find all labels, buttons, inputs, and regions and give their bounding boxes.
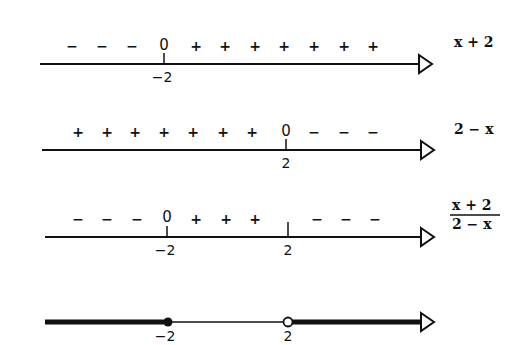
zero-marker: 0 <box>281 122 291 140</box>
plus-sign: + <box>72 124 84 140</box>
tick-label: 2 <box>282 155 291 171</box>
plus-sign: + <box>158 124 170 140</box>
plus-sign: + <box>220 211 232 227</box>
expression-label: x + 2 <box>454 34 494 50</box>
zero-marker: 0 <box>162 208 172 226</box>
zero-marker: 0 <box>159 36 169 54</box>
plus-sign: + <box>190 211 202 227</box>
number-line-2-minus-x: 0 2 +++++++−−− 2 − x <box>42 121 494 171</box>
sign-markers: +++++++−−− <box>72 124 379 140</box>
plus-sign: + <box>217 124 229 140</box>
plus-sign: + <box>187 124 199 140</box>
tick-label: 2 <box>284 328 293 344</box>
plus-sign: + <box>249 211 261 227</box>
arrow-head-icon <box>421 141 434 159</box>
open-point-icon <box>284 318 293 327</box>
minus-sign: − <box>340 211 352 227</box>
plus-sign: + <box>278 38 290 54</box>
plus-sign: + <box>101 124 113 140</box>
minus-sign: − <box>66 38 78 54</box>
tick-label: −2 <box>152 69 173 85</box>
arrow-head-icon <box>419 55 432 73</box>
plus-sign: + <box>219 38 231 54</box>
minus-sign: − <box>126 38 138 54</box>
tick-label: 2 <box>284 242 293 258</box>
sign-markers: −−−+++−−− <box>72 211 381 227</box>
expression-numerator: x + 2 <box>452 197 492 213</box>
expression-denominator: 2 − x <box>452 216 492 232</box>
expression-label: 2 − x <box>454 121 494 137</box>
arrow-head-icon <box>421 313 434 331</box>
minus-sign: − <box>338 124 350 140</box>
minus-sign: − <box>369 211 381 227</box>
plus-sign: + <box>338 38 350 54</box>
sign-chart-diagram: 0 −2 −−−+++++++ x + 2 0 2 +++++++−−− 2 −… <box>0 0 519 345</box>
plus-sign: + <box>246 124 258 140</box>
minus-sign: − <box>131 211 143 227</box>
number-line-x-plus-2: 0 −2 −−−+++++++ x + 2 <box>40 34 494 85</box>
minus-sign: − <box>367 124 379 140</box>
minus-sign: − <box>101 211 113 227</box>
minus-sign: − <box>308 124 320 140</box>
tick-label: −2 <box>155 328 176 344</box>
sign-markers: −−−+++++++ <box>66 38 379 54</box>
plus-sign: + <box>308 38 320 54</box>
closed-point-icon <box>164 318 173 327</box>
arrow-head-icon <box>421 228 434 246</box>
plus-sign: + <box>129 124 141 140</box>
tick-label: −2 <box>155 242 176 258</box>
minus-sign: − <box>311 211 323 227</box>
minus-sign: − <box>72 211 84 227</box>
plus-sign: + <box>249 38 261 54</box>
number-line-quotient: 0 −2 2 −−−+++−−− x + 2 2 − x <box>45 197 500 258</box>
plus-sign: + <box>367 38 379 54</box>
solution-number-line: −2 2 <box>45 313 434 344</box>
minus-sign: − <box>96 38 108 54</box>
plus-sign: + <box>190 38 202 54</box>
